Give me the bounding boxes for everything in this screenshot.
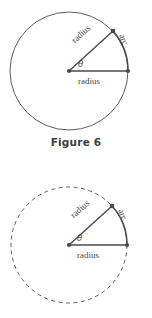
right-vertex-dot xyxy=(125,243,129,247)
label-angle-theta: θ xyxy=(77,234,82,243)
label-radius-horizontal: radius xyxy=(77,251,99,260)
figure-bottom-svg xyxy=(0,175,152,318)
figure-top-svg xyxy=(0,0,152,132)
label-angle-theta: θ xyxy=(78,60,83,69)
upper-vertex-dot xyxy=(111,29,115,33)
figure-caption: Figure 6 xyxy=(0,136,152,148)
figure-bottom-diagram: radius radius arc θ xyxy=(0,175,152,318)
figure-top-diagram: radius radius arc θ Figure 6 xyxy=(0,0,152,132)
label-radius-horizontal: radius xyxy=(78,77,100,86)
right-vertex-dot xyxy=(126,69,130,73)
center-point-dot xyxy=(67,69,71,73)
figure-page: radius radius arc θ Figure 6 radius radi… xyxy=(0,0,152,318)
upper-vertex-dot xyxy=(110,204,114,208)
center-point-dot xyxy=(67,243,71,247)
